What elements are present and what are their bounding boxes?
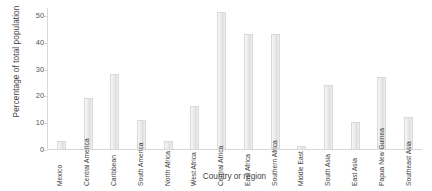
category-slot: Mexico [47, 151, 74, 187]
category-slot: South Asia [315, 151, 342, 187]
plot-area [47, 8, 422, 150]
bar [244, 34, 253, 149]
category-slot: Southeast Asia [395, 151, 422, 187]
category-slot: Southern Africa [261, 151, 288, 187]
y-tick-mark [44, 150, 47, 151]
bar-slot [315, 8, 342, 149]
bar-slot [208, 8, 235, 149]
x-axis-tick-label: South Asia [324, 154, 331, 186]
bar-chart: Percentage of total population 010203040… [0, 0, 432, 191]
bar-series [48, 8, 422, 149]
bar-slot [288, 8, 315, 149]
y-axis-tick-30: 30 [24, 66, 44, 73]
y-axis-tick-50: 50 [24, 12, 44, 19]
bar-slot [75, 8, 102, 149]
category-slot: Papua New Guinea [368, 151, 395, 187]
y-tick-mark [44, 43, 47, 44]
bar [190, 106, 199, 149]
y-axis-tick-40: 40 [24, 39, 44, 46]
category-slot: South America [127, 151, 154, 187]
bar-slot [342, 8, 369, 149]
category-slot: East Africa [234, 151, 261, 187]
bar [271, 34, 280, 149]
y-tick-mark [44, 123, 47, 124]
bar-slot [128, 8, 155, 149]
category-slot: West Africa [181, 151, 208, 187]
y-axis-tick-10: 10 [24, 120, 44, 127]
bar-slot [395, 8, 422, 149]
y-tick-mark [44, 96, 47, 97]
bar-slot [155, 8, 182, 149]
bar-slot [101, 8, 128, 149]
y-tick-mark [44, 70, 47, 71]
bar [110, 74, 119, 149]
bar [164, 141, 173, 149]
x-axis-tick-label: East Africa [244, 154, 251, 186]
x-axis-category-labels: MexicoCentral AmericaCaribbeanSouth Amer… [47, 151, 422, 187]
category-slot: Middle East [288, 151, 315, 187]
bar [217, 12, 226, 149]
x-axis-tick-label: Caribbean [110, 155, 117, 186]
y-axis-tick-0: 0 [24, 146, 44, 153]
bar [351, 122, 360, 149]
y-tick-mark [44, 16, 47, 17]
bar-slot [262, 8, 289, 149]
y-axis-tick-20: 20 [24, 93, 44, 100]
bar [297, 146, 306, 149]
bar-slot [235, 8, 262, 149]
category-slot: East Asia [342, 151, 369, 187]
category-slot: Central America [74, 151, 101, 187]
bar [324, 85, 333, 149]
bar-slot [182, 8, 209, 149]
y-axis-tick-labels: 01020304050 [24, 0, 44, 191]
category-slot: Central Africa [208, 151, 235, 187]
y-axis-title: Percentage of total population [12, 0, 21, 132]
x-axis-title: Country or region [47, 172, 422, 181]
category-slot: North Africa [154, 151, 181, 187]
bar-slot [48, 8, 75, 149]
category-slot: Caribbean [101, 151, 128, 187]
bar [57, 141, 66, 149]
